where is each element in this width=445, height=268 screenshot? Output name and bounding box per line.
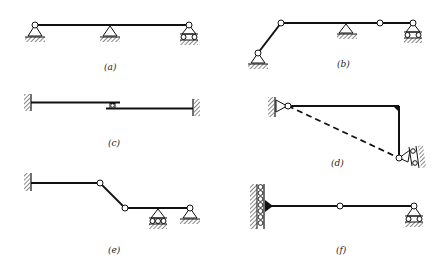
panel-label-d: (d) (331, 158, 344, 168)
roller-support-icon (149, 209, 167, 229)
hinge-icon (285, 103, 291, 109)
inclined-member (100, 183, 125, 208)
hinge-icon (122, 205, 128, 211)
hinge-icon (97, 180, 103, 186)
panel-label-f: (f) (336, 245, 347, 255)
fixed-wall-icon (24, 94, 31, 111)
pin-support-icon (337, 24, 357, 39)
fixed-wall-icon (268, 97, 275, 117)
pin-support-icon (248, 50, 268, 69)
panel-label-c: (c) (108, 138, 121, 148)
panel-b (248, 20, 422, 69)
fixed-wall-icon (24, 173, 31, 191)
fixed-wall-icon (193, 99, 200, 116)
panel-label-a: (a) (104, 62, 117, 72)
panel-label-e: (e) (108, 245, 121, 255)
panel-c (24, 94, 200, 116)
panel-e (24, 173, 200, 229)
inclined-member (258, 23, 281, 53)
inclined-roller-support-icon (396, 145, 426, 168)
panel-a (25, 22, 198, 45)
panel-f (250, 184, 423, 229)
roller-guided-wall-icon (250, 184, 264, 229)
structural-diagram: (a) (b) (0, 0, 445, 268)
hinge-icon (377, 20, 383, 26)
hinge-icon (337, 203, 343, 209)
panel-d (268, 97, 426, 168)
panel-label-b: (b) (337, 59, 350, 69)
slider-link-icon (110, 104, 115, 109)
pin-support-icon (100, 26, 120, 42)
dashed-chord (288, 106, 399, 158)
hinge-icon (278, 20, 284, 26)
